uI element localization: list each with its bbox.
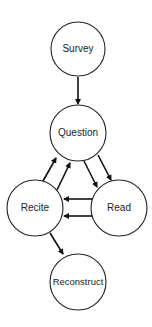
node-label: Question xyxy=(58,127,98,138)
edge-recite-reconstruct xyxy=(50,233,63,254)
node-reconstruct: Reconstruct xyxy=(50,254,106,310)
edge-recite-question-1 xyxy=(43,158,56,181)
node-question: Question xyxy=(50,105,106,161)
node-survey: Survey xyxy=(51,22,105,76)
edge-question-read-2 xyxy=(98,155,111,180)
node-label: Recite xyxy=(21,202,50,213)
edge-question-read-1 xyxy=(84,161,97,187)
node-label: Read xyxy=(107,202,131,213)
node-recite: Recite xyxy=(7,180,63,236)
node-read: Read xyxy=(91,180,147,236)
edge-recite-question-2 xyxy=(57,163,70,190)
node-label: Reconstruct xyxy=(53,276,104,287)
sq5r-diagram: Survey Question Recite Read Reconstruct xyxy=(0,0,152,327)
node-label: Survey xyxy=(62,43,93,54)
